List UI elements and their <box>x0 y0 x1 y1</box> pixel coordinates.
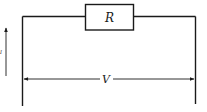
side-arrow: I <box>0 28 6 76</box>
circuit-diagram: R V I <box>0 0 207 112</box>
side-arrow-label: I <box>0 49 3 55</box>
voltage-label: V <box>102 73 111 86</box>
resistor: R <box>86 5 134 31</box>
resistor-label: R <box>104 11 114 25</box>
voltage-arrow: V <box>24 73 194 86</box>
